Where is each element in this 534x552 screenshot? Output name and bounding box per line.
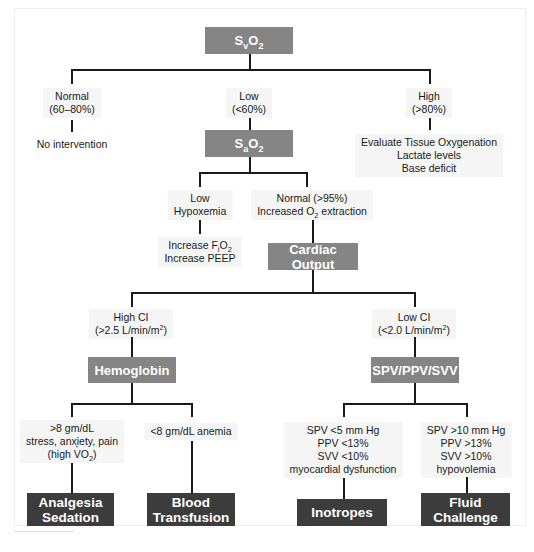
connector: [199, 172, 307, 174]
connector: [343, 403, 345, 417]
spv-ppv-svv-node: SPV/PPV/SVV: [371, 357, 459, 383]
hemoglobin-node: Hemoglobin: [88, 357, 176, 383]
connector: [249, 118, 251, 130]
low-svo2-label: Low(<60%): [226, 88, 272, 118]
connector: [466, 477, 468, 493]
normal-sao2-label: Normal (>95%) Increased O2 extraction: [251, 190, 373, 220]
connector: [131, 292, 133, 307]
normal-svo2-label: Normal(60–80%): [43, 88, 101, 118]
svo2-node: SvO2: [205, 27, 293, 54]
connector: [429, 69, 431, 84]
connector: [71, 69, 430, 71]
no-intervention-label: No intervention: [37, 138, 108, 151]
connector: [312, 220, 314, 243]
fluid-challenge-node: FluidChallenge: [421, 493, 510, 526]
connector: [466, 403, 468, 417]
connector: [71, 403, 192, 405]
high-ci-label: High CI (>2.5 L/min/m2): [89, 309, 173, 339]
connector: [249, 54, 251, 69]
hypoxemia-action: Increase FiO2 Increase PEEP: [158, 237, 241, 267]
connector: [71, 403, 73, 417]
low-ci-label: Low CI (<2.0 L/min/m2): [372, 309, 456, 339]
connector: [343, 478, 345, 499]
analgesia-sedation-node: AnalgesiaSedation: [27, 493, 114, 526]
connector: [191, 403, 193, 417]
spv-high-label: SPV >10 mm Hg PPV >13% SVV >10% hypovole…: [421, 422, 512, 478]
connector: [71, 463, 73, 493]
blood-transfusion-node: BloodTransfusion: [147, 493, 235, 526]
connector: [414, 337, 416, 357]
high-svo2-label: High(>80%): [406, 88, 452, 118]
sao2-node: SaO2: [205, 130, 293, 157]
connector: [131, 383, 133, 403]
connector: [71, 69, 73, 84]
connector: [306, 172, 308, 187]
connector: [199, 220, 201, 234]
connector: [131, 337, 133, 357]
connector: [131, 292, 415, 294]
high-svo2-action: Evaluate Tissue Oxygenation Lactate leve…: [355, 134, 503, 177]
connector: [429, 118, 431, 130]
connector: [199, 172, 201, 187]
hb-high-label: >8 gm/dL stress, anxiety, pain (high VO2…: [20, 420, 124, 463]
connector: [343, 403, 467, 405]
cardiac-output-node: Cardiac Output: [268, 243, 358, 270]
connector: [249, 157, 251, 172]
spv-low-label: SPV <5 mm Hg PPV <13% SVV <10% myocardia…: [284, 422, 403, 478]
footnote-rule: [14, 531, 74, 532]
connector: [414, 292, 416, 307]
low-hypoxemia-label: LowHypoxemia: [168, 190, 233, 220]
inotropes-node: Inotropes: [297, 499, 387, 526]
hb-low-label: <8 gm/dL anemia: [144, 423, 237, 440]
connector: [414, 383, 416, 403]
connector: [191, 441, 193, 493]
connector: [71, 120, 73, 132]
connector: [312, 270, 314, 292]
